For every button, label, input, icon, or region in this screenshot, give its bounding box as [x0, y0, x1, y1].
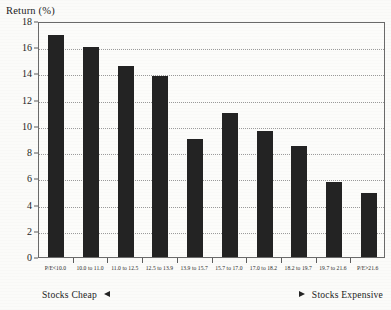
y-axis-tick-label: 10 — [6, 122, 32, 132]
annotation-stocks-expensive: Stocks Expensive — [299, 289, 383, 300]
y-axis-tick-label: 4 — [6, 201, 32, 211]
bar — [361, 193, 377, 257]
x-axis-tick-mark — [246, 258, 247, 263]
x-axis-tick-mark — [350, 258, 351, 263]
bar — [187, 139, 203, 257]
chart-figure: Return (%) 024681012141618 P/E<10.010.0 … — [0, 0, 391, 310]
bar — [326, 182, 342, 257]
left-triangle-icon — [104, 291, 110, 297]
y-axis-tick-label: 14 — [6, 69, 32, 79]
annotation-stocks-cheap: Stocks Cheap — [42, 289, 110, 300]
y-axis-tick-label: 12 — [6, 96, 32, 106]
x-axis-tick-mark — [177, 258, 178, 263]
bar — [83, 47, 99, 257]
x-axis-tick-mark — [316, 258, 317, 263]
plot-area — [38, 22, 385, 258]
x-axis-tick-mark — [212, 258, 213, 263]
y-axis-title: Return (%) — [6, 5, 55, 16]
y-axis-tick-label: 8 — [6, 148, 32, 158]
x-axis-tick-label: P/E>21.6 — [347, 266, 388, 272]
annotation-expensive-text: Stocks Expensive — [312, 289, 383, 300]
bar — [48, 35, 64, 257]
bar — [118, 66, 134, 257]
right-triangle-icon — [299, 291, 305, 297]
y-axis-tick-label: 2 — [6, 227, 32, 237]
x-axis-tick-mark — [73, 258, 74, 263]
y-axis-tick-label: 18 — [6, 17, 32, 27]
bar — [152, 76, 168, 257]
bar — [257, 131, 273, 257]
bar — [291, 146, 307, 257]
y-axis-tick-label: 0 — [6, 253, 32, 263]
x-axis-tick-mark — [281, 258, 282, 263]
annotation-cheap-text: Stocks Cheap — [42, 289, 97, 300]
x-axis-tick-mark — [142, 258, 143, 263]
y-axis-tick-label: 16 — [6, 43, 32, 53]
y-axis-tick-label: 6 — [6, 174, 32, 184]
bar — [222, 113, 238, 257]
x-axis-tick-mark — [107, 258, 108, 263]
